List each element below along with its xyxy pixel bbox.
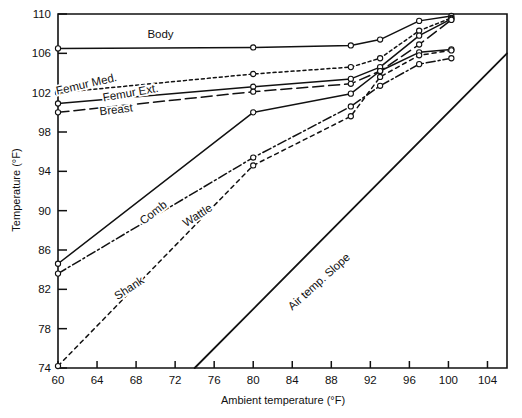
data-point-marker xyxy=(251,155,256,160)
data-point-marker xyxy=(378,68,383,73)
data-point-marker xyxy=(251,110,256,115)
x-tick-label: 96 xyxy=(403,374,416,386)
data-point-marker xyxy=(417,42,422,47)
data-point-marker xyxy=(55,271,60,276)
data-point-marker xyxy=(251,89,256,94)
y-tick-label: 98 xyxy=(38,126,51,138)
chart-background xyxy=(0,0,522,418)
data-point-marker xyxy=(378,37,383,42)
data-point-marker xyxy=(417,62,422,67)
series-label-body: Body xyxy=(147,28,173,40)
x-tick-label: 80 xyxy=(247,374,260,386)
data-point-marker xyxy=(378,74,383,79)
data-point-marker xyxy=(417,18,422,23)
data-point-marker xyxy=(55,46,60,51)
data-point-marker xyxy=(251,45,256,50)
data-point-marker xyxy=(348,43,353,48)
y-tick-label: 74 xyxy=(38,362,51,374)
x-tick-label: 60 xyxy=(52,374,65,386)
data-point-marker xyxy=(378,83,383,88)
y-tick-label: 102 xyxy=(32,87,51,99)
data-point-marker xyxy=(417,33,422,38)
data-point-marker xyxy=(55,101,60,106)
data-point-marker xyxy=(55,363,60,368)
y-tick-label: 110 xyxy=(33,8,51,20)
x-tick-label: 88 xyxy=(325,374,338,386)
y-tick-label: 90 xyxy=(38,205,51,217)
y-tick-label: 78 xyxy=(38,323,51,335)
data-point-marker xyxy=(348,91,353,96)
data-point-marker xyxy=(348,65,353,70)
data-point-marker xyxy=(449,48,454,53)
x-tick-label: 104 xyxy=(478,374,498,386)
data-point-marker xyxy=(378,56,383,61)
data-point-marker xyxy=(348,114,353,119)
data-point-marker xyxy=(348,104,353,109)
data-point-marker xyxy=(449,56,454,61)
y-tick-label: 106 xyxy=(32,47,51,59)
x-axis-title: Ambient temperature (°F) xyxy=(221,394,345,406)
y-tick-label: 86 xyxy=(38,244,51,256)
x-tick-label: 64 xyxy=(91,374,104,386)
data-point-marker xyxy=(251,71,256,76)
data-point-marker xyxy=(417,53,422,58)
data-point-marker xyxy=(449,17,454,22)
x-tick-label: 84 xyxy=(286,374,299,386)
data-point-marker xyxy=(55,261,60,266)
x-tick-label: 100 xyxy=(439,374,458,386)
y-tick-label: 94 xyxy=(38,165,51,177)
x-tick-label: 72 xyxy=(169,374,182,386)
x-tick-label: 76 xyxy=(208,374,221,386)
y-tick-label: 82 xyxy=(38,283,51,295)
chart-figure: 60646872768084889296100104 7478828690949… xyxy=(0,0,522,418)
data-point-marker xyxy=(251,163,256,168)
line-chart: 60646872768084889296100104 7478828690949… xyxy=(0,0,522,418)
y-axis-title: Temperature (°F) xyxy=(10,148,22,231)
data-point-marker xyxy=(55,110,60,115)
data-point-marker xyxy=(348,81,353,86)
x-tick-label: 68 xyxy=(130,374,143,386)
x-tick-label: 92 xyxy=(364,374,377,386)
